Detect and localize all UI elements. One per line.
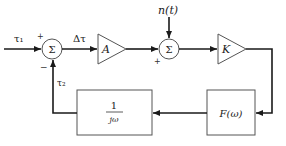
gain-block-k: K [218, 34, 246, 64]
feedback-tau2: τ₂ [53, 60, 77, 113]
sum2-plus-sign: + [154, 57, 161, 66]
tau1-label: τ₁ [14, 33, 24, 44]
input-tau1: τ₁ [4, 33, 41, 49]
noise-label: n(t) [158, 4, 178, 17]
delta-tau-signal: Δτ [62, 33, 97, 49]
tau2-label: τ₂ [57, 78, 66, 88]
sum1-plus-sign: + [37, 32, 44, 41]
gain-k-label: K [221, 43, 231, 56]
gain-a-label: A [101, 43, 110, 56]
delta-tau-label: Δτ [73, 33, 86, 44]
integrator-denominator: jω [107, 115, 118, 124]
gain-block-a: A [98, 34, 126, 64]
integrator-block: 1 jω [77, 90, 152, 135]
summing-junction-2: Σ + [154, 39, 179, 66]
sum1-minus-sign: − [40, 62, 48, 72]
summing-junction-1: Σ + − [37, 32, 62, 72]
loop-filter-label: F(ω) [219, 108, 243, 119]
noise-input: n(t) [158, 4, 178, 38]
sum2-symbol: Σ [165, 44, 172, 55]
sum1-symbol: Σ [48, 44, 55, 55]
feedback-block-diagram: τ₁ Σ + − Δτ A n(t) Σ + K F(ω) [0, 0, 286, 146]
loop-filter-block: F(ω) [207, 90, 255, 135]
integrator-numerator: 1 [111, 100, 117, 111]
